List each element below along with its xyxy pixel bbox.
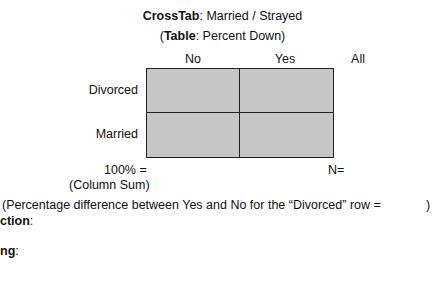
row-header-married: Married: [48, 127, 138, 141]
crosstab-title: CrossTab: Married / Strayed: [0, 9, 445, 23]
crosstab-grid: [146, 68, 334, 158]
cell-married-no[interactable]: [147, 113, 240, 157]
column-sum-label: 100% =: [104, 163, 147, 177]
crosstab-subtitle: (Table: Percent Down): [0, 29, 445, 43]
cell-divorced-yes[interactable]: [240, 69, 333, 113]
meaning-label: ng:: [0, 244, 19, 258]
direction-label: ction:: [0, 214, 33, 228]
percentage-difference-close: ): [426, 198, 430, 212]
n-label: N=: [328, 163, 344, 177]
column-sum-sublabel: (Column Sum): [69, 178, 150, 192]
column-header-no: No: [176, 52, 210, 66]
row-header-divorced: Divorced: [48, 83, 138, 97]
cell-married-yes[interactable]: [240, 113, 333, 157]
column-header-yes: Yes: [268, 52, 302, 66]
percentage-difference-note: (Percentage difference between Yes and N…: [2, 198, 381, 212]
column-header-all: All: [346, 52, 370, 66]
cell-divorced-no[interactable]: [147, 69, 240, 113]
